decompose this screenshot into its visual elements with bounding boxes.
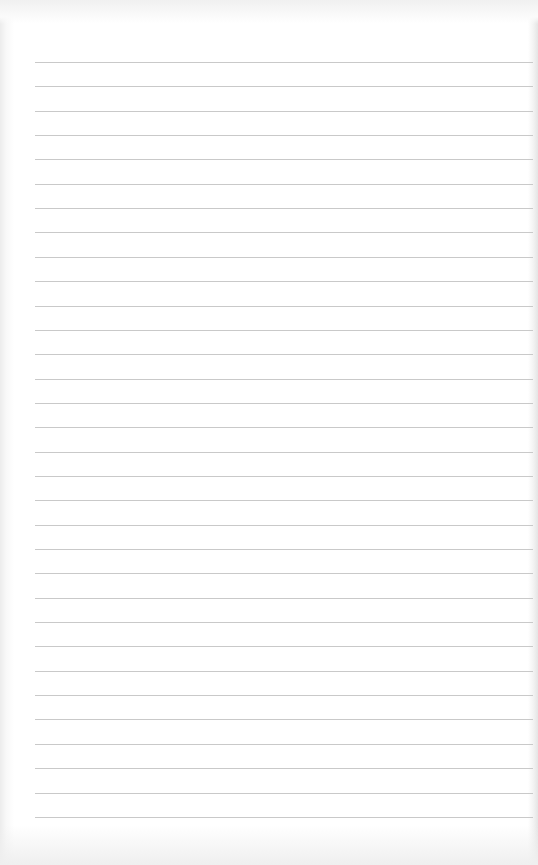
ruled-line <box>35 379 533 380</box>
ruled-line <box>35 549 533 550</box>
ruled-line <box>35 354 533 355</box>
ruled-line <box>35 695 533 696</box>
ruled-line <box>35 111 533 112</box>
ruled-line <box>35 306 533 307</box>
ruled-line <box>35 646 533 647</box>
ruled-line <box>35 671 533 672</box>
bottom-edge-shadow <box>0 825 538 865</box>
ruled-line <box>35 500 533 501</box>
ruled-line <box>35 427 533 428</box>
ruled-line <box>35 573 533 574</box>
ruled-line <box>35 135 533 136</box>
ruled-line <box>35 330 533 331</box>
ruled-line <box>35 452 533 453</box>
ruled-line <box>35 86 533 87</box>
ruled-line <box>35 184 533 185</box>
ruled-line <box>35 281 533 282</box>
ruled-line <box>35 62 533 63</box>
ruled-line <box>35 744 533 745</box>
ruled-line <box>35 208 533 209</box>
ruled-line <box>35 793 533 794</box>
ruled-line <box>35 257 533 258</box>
ruled-line <box>35 598 533 599</box>
ruled-line <box>35 476 533 477</box>
ruled-line <box>35 622 533 623</box>
ruled-line <box>35 403 533 404</box>
lined-paper-sheet <box>0 0 538 865</box>
ruled-line <box>35 719 533 720</box>
ruled-line <box>35 525 533 526</box>
top-edge-shadow <box>0 0 538 24</box>
ruled-line <box>35 768 533 769</box>
ruled-line <box>35 817 533 818</box>
ruled-line <box>35 159 533 160</box>
ruled-line <box>35 232 533 233</box>
